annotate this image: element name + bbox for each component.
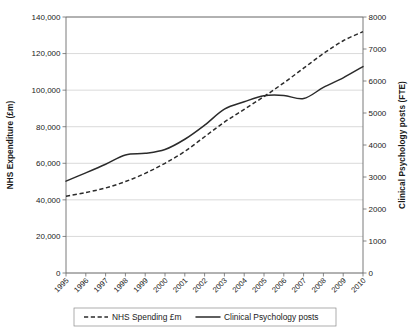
left-axis-tick-label: 100,000	[32, 86, 61, 95]
chart-figure: 020,00040,00060,00080,000100,000120,0001…	[0, 0, 416, 331]
left-axis-tick-label: 80,000	[36, 123, 61, 132]
chart-legend: NHS Spending £m Clinical Psychology post…	[74, 308, 336, 326]
right-axis-tick-label: 5000	[369, 109, 387, 118]
left-axis-tick-label: 0	[56, 269, 61, 278]
right-axis-tick-label: 4000	[369, 141, 387, 150]
right-axis-tick-label: 1000	[369, 237, 387, 246]
series-clinical-psychology-posts	[66, 67, 363, 182]
x-axis-tick-label: 1995	[52, 276, 70, 294]
right-axis-tick-label: 8000	[369, 13, 387, 22]
right-axis-tick-label: 0	[369, 269, 374, 278]
x-axis-tick-label: 2004	[230, 276, 248, 294]
x-axis-tick-label: 1997	[92, 276, 110, 294]
left-axis-tick-label: 20,000	[36, 232, 61, 241]
x-axis-tick-label: 2008	[310, 276, 328, 294]
x-axis-tick-label: 2000	[151, 276, 169, 294]
right-axis-tick-labels: 010002000300040005000600070008000	[369, 13, 387, 278]
left-axis-title: NHS Expenditure (£m)	[6, 101, 15, 190]
series-nhs-spending	[66, 32, 363, 197]
right-axis-title: Clinical Psychology posts (FTE)	[398, 81, 407, 209]
left-axis-tick-label: 140,000	[32, 13, 61, 22]
x-axis-tick-label: 1996	[72, 276, 90, 294]
legend-label-nhs-spending: NHS Spending £m	[112, 312, 181, 322]
x-axis-ticks	[66, 273, 363, 277]
right-axis-tick-label: 2000	[369, 205, 387, 214]
x-axis-tick-label: 2001	[171, 276, 189, 294]
left-axis-tick-label: 60,000	[36, 159, 61, 168]
x-axis-tick-labels: 1995199619971998199920002001200220032004…	[52, 276, 367, 294]
left-axis-tick-label: 40,000	[36, 196, 61, 205]
x-axis-tick-label: 2003	[211, 276, 229, 294]
gridlines	[66, 17, 363, 273]
x-axis-tick-label: 2002	[191, 276, 209, 294]
right-axis-tick-label: 7000	[369, 45, 387, 54]
x-axis-tick-label: 1999	[131, 276, 149, 294]
x-axis-tick-label: 2007	[290, 276, 308, 294]
x-axis-tick-label: 2009	[329, 276, 347, 294]
x-axis-tick-label: 2010	[349, 276, 367, 294]
line-chart: 020,00040,00060,00080,000100,000120,0001…	[0, 0, 416, 331]
left-axis-tick-labels: 020,00040,00060,00080,000100,000120,0001…	[32, 13, 61, 278]
left-axis-tick-label: 120,000	[32, 49, 61, 58]
right-axis-tick-label: 6000	[369, 77, 387, 86]
x-axis-tick-label: 2005	[250, 276, 268, 294]
right-axis-ticks	[363, 17, 367, 273]
legend-label-clinical-psychology-posts: Clinical Psychology posts	[224, 312, 319, 322]
x-axis-tick-label: 1998	[112, 276, 130, 294]
right-axis-tick-label: 3000	[369, 173, 387, 182]
left-axis-ticks	[63, 17, 67, 273]
x-axis-tick-label: 2006	[270, 276, 288, 294]
